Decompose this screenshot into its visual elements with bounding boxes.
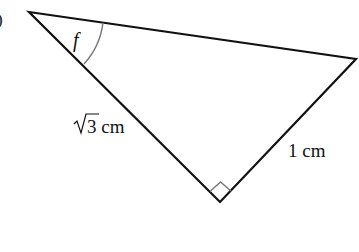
part-label: ) [0, 10, 3, 29]
triangle-diagram: ) f 3 cm 1 cm [0, 0, 359, 252]
left-side-label: 3 cm [74, 114, 125, 137]
left-side-value: 3 cm [87, 116, 125, 137]
right-side-label: 1 cm [288, 140, 326, 161]
right-angle-marker [210, 182, 231, 192]
angle-label-f: f [73, 29, 81, 52]
angle-arc [84, 23, 103, 64]
